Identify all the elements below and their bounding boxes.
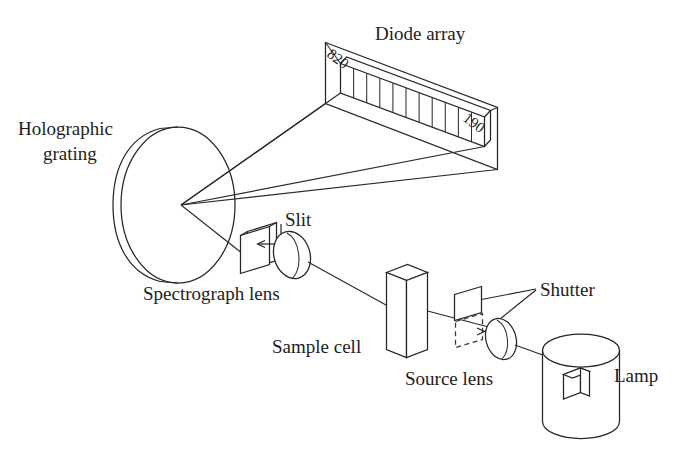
source-lens-group xyxy=(481,315,521,364)
sample-cell-front xyxy=(387,273,407,358)
grating-face xyxy=(121,127,235,283)
wavelength-label-left: 820 xyxy=(324,46,352,72)
wavelength-tick-right xyxy=(491,108,498,111)
diode-array-label: Diode array xyxy=(375,23,466,44)
lamp-group xyxy=(543,334,620,439)
beam-cell-to-spectrograph-lens xyxy=(308,262,386,305)
slit-label: Slit xyxy=(285,209,312,230)
shutter-closed-arrow xyxy=(477,328,485,335)
ray-to-strip-left xyxy=(181,93,341,205)
wavelength-label-right: 190 xyxy=(460,110,488,136)
holographic-grating-group xyxy=(113,127,235,283)
shutter-leader-upper xyxy=(482,289,537,300)
ray-slit-to-grating xyxy=(181,205,243,254)
sample-cell-label: Sample cell xyxy=(272,336,361,357)
spectrograph-lens-label: Spectrograph lens xyxy=(143,283,280,304)
grating-edge-top xyxy=(160,127,178,129)
spectrophotometer-diagram: 820 190 Holographic grating xyxy=(0,0,673,453)
diode-array-panel xyxy=(326,43,498,170)
holographic-grating-label-line2: grating xyxy=(43,143,97,164)
diode-array-group xyxy=(326,43,498,170)
holographic-grating-label-line1: Holographic xyxy=(18,118,113,139)
shutter-plate-open xyxy=(455,287,482,321)
source-lens-label: Source lens xyxy=(405,368,493,389)
diode-array-strip-bevel-top xyxy=(341,57,491,117)
sample-cell-right xyxy=(407,273,428,358)
lamp-label: Lamp xyxy=(614,365,658,386)
source-lens-body xyxy=(481,315,521,364)
lamp-emitter-right xyxy=(581,368,590,396)
shutter-label: Shutter xyxy=(540,279,596,300)
lamp-top xyxy=(543,334,620,367)
diagram-canvas: 820 190 Holographic grating xyxy=(0,0,673,453)
dispersed-ray-fan xyxy=(181,93,498,205)
sample-cell-group xyxy=(387,265,428,358)
